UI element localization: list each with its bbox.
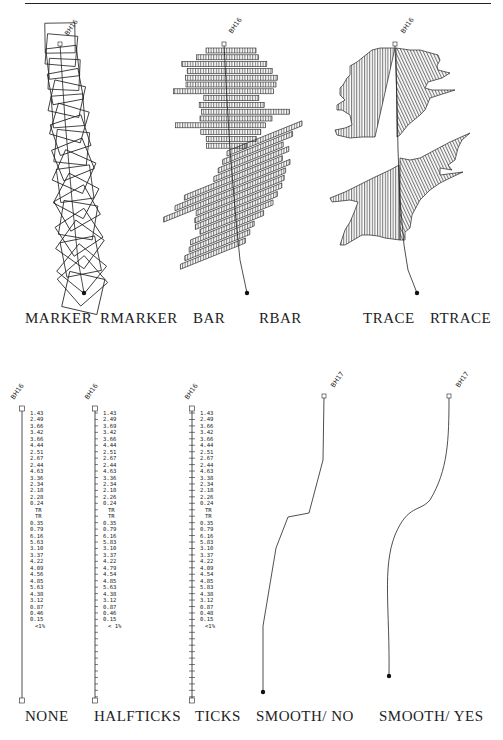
svg-text:2.49: 2.49 [200, 416, 213, 422]
svg-text:3.66: 3.66 [103, 436, 116, 442]
caption-rtrace: RTRACE [430, 310, 491, 327]
svg-text:3.66: 3.66 [30, 423, 43, 429]
svg-text:TR: TR [205, 513, 212, 519]
borehole-label: BH17 [329, 370, 346, 389]
halfticks-column: 1.432.493.693.423.664.442.512.672.444.63… [93, 406, 123, 703]
svg-text:4.85: 4.85 [30, 578, 43, 584]
svg-text:1.43: 1.43 [30, 410, 43, 416]
none-column: 1.432.493.663.423.664.442.512.672.444.63… [20, 406, 46, 703]
svg-text:0.35: 0.35 [103, 520, 116, 526]
svg-text:<1%: <1% [205, 623, 216, 629]
borehole-label: BH16 [63, 18, 80, 37]
marker-panel [45, 23, 108, 315]
caption-halfticks: HALFTICKS [94, 708, 181, 725]
svg-text:0.87: 0.87 [30, 604, 43, 610]
svg-text:4.79: 4.79 [103, 565, 116, 571]
svg-text:4.56: 4.56 [30, 571, 43, 577]
svg-text:TR: TR [108, 513, 115, 519]
svg-text:0.48: 0.48 [200, 610, 214, 616]
svg-text:3.10: 3.10 [200, 545, 213, 551]
svg-text:2.44: 2.44 [103, 462, 117, 468]
svg-text:0.46: 0.46 [103, 610, 116, 616]
svg-text:2.26: 2.26 [103, 494, 116, 500]
svg-text:3.10: 3.10 [103, 545, 116, 551]
svg-text:3.12: 3.12 [30, 597, 43, 603]
svg-text:TR: TR [205, 507, 212, 513]
borehole-label: BH16 [183, 382, 200, 401]
svg-text:4.85: 4.85 [103, 578, 116, 584]
caption-trace: TRACE [363, 310, 415, 327]
svg-text:4.63: 4.63 [103, 468, 116, 474]
svg-text:2.18: 2.18 [200, 487, 214, 493]
svg-text:3.42: 3.42 [103, 429, 116, 435]
svg-text:4.63: 4.63 [200, 468, 213, 474]
borehole-label: BH16 [9, 382, 26, 401]
figure-canvas: BH16 BH16 BH16 1.432.493.663.423.664.442… [0, 0, 503, 740]
svg-text:5.83: 5.83 [200, 584, 213, 590]
svg-text:TR: TR [108, 507, 115, 513]
svg-text:2.34: 2.34 [103, 481, 117, 487]
svg-text:3.37: 3.37 [103, 552, 116, 558]
svg-text:2.49: 2.49 [30, 416, 43, 422]
caption-bar: BAR [193, 310, 225, 327]
svg-text:2.44: 2.44 [30, 462, 44, 468]
svg-text:2.18: 2.18 [103, 487, 117, 493]
svg-text:3.38: 3.38 [200, 475, 214, 481]
svg-text:5.83: 5.83 [103, 539, 116, 545]
svg-text:3.42: 3.42 [200, 429, 213, 435]
svg-text:4.22: 4.22 [103, 558, 116, 564]
svg-text:4.09: 4.09 [30, 565, 43, 571]
borehole-label: BH16 [83, 382, 100, 401]
svg-text:0.15: 0.15 [200, 616, 213, 622]
svg-text:0.79: 0.79 [103, 526, 116, 532]
svg-text:5.63: 5.63 [103, 584, 116, 590]
svg-text:6.16: 6.16 [200, 533, 213, 539]
svg-text:4.54: 4.54 [200, 571, 214, 577]
svg-text:2.51: 2.51 [103, 449, 116, 455]
svg-text:< 1%: < 1% [108, 623, 122, 629]
svg-text:4.44: 4.44 [200, 442, 214, 448]
svg-text:3.42: 3.42 [30, 429, 43, 435]
svg-text:2.44: 2.44 [200, 462, 214, 468]
svg-text:0.15: 0.15 [103, 616, 116, 622]
svg-text:0.24: 0.24 [30, 500, 44, 506]
svg-text:4.22: 4.22 [30, 558, 43, 564]
svg-text:0.87: 0.87 [200, 604, 213, 610]
smooth-yes-panel [387, 394, 451, 678]
svg-text:0.24: 0.24 [103, 500, 117, 506]
svg-text:4.22: 4.22 [200, 558, 213, 564]
svg-text:4.38: 4.38 [30, 591, 44, 597]
svg-text:3.12: 3.12 [103, 597, 116, 603]
svg-text:4.63: 4.63 [30, 468, 43, 474]
caption-smooth-no: SMOOTH/ NO [256, 708, 354, 725]
svg-text:2.67: 2.67 [30, 455, 43, 461]
svg-text:3.36: 3.36 [103, 475, 116, 481]
svg-text:0.87: 0.87 [103, 604, 116, 610]
svg-text:3.37: 3.37 [30, 552, 43, 558]
svg-text:2.51: 2.51 [200, 449, 213, 455]
svg-text:5.63: 5.63 [30, 584, 43, 590]
caption-rbar: RBAR [259, 310, 302, 327]
svg-text:3.10: 3.10 [30, 545, 43, 551]
svg-text:4.09: 4.09 [200, 565, 213, 571]
svg-text:3.66: 3.66 [200, 423, 213, 429]
caption-marker: MARKER [25, 310, 92, 327]
svg-text:4.44: 4.44 [30, 442, 44, 448]
trace-panel [330, 42, 470, 295]
caption-none: NONE [25, 708, 69, 725]
svg-text:2.51: 2.51 [30, 449, 43, 455]
svg-text:2.67: 2.67 [200, 455, 213, 461]
svg-text:2.49: 2.49 [103, 416, 116, 422]
svg-text:0.35: 0.35 [30, 520, 43, 526]
smooth-no-panel [261, 394, 326, 694]
svg-text:3.12: 3.12 [200, 597, 213, 603]
borehole-label: BH17 [454, 370, 471, 389]
svg-text:2.34: 2.34 [200, 481, 214, 487]
svg-text:<1%: <1% [35, 623, 46, 629]
svg-text:0.79: 0.79 [200, 526, 213, 532]
svg-text:0.79: 0.79 [30, 526, 43, 532]
caption-ticks: TICKS [195, 708, 241, 725]
svg-text:2.18: 2.18 [30, 487, 44, 493]
svg-text:6.16: 6.16 [103, 533, 116, 539]
svg-text:3.66: 3.66 [30, 436, 43, 442]
